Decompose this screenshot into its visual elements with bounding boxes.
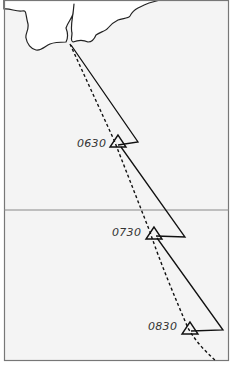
navigation-chart [0, 0, 232, 382]
fix-time-label: 0830 [148, 321, 177, 332]
sea-area [4, 0, 229, 361]
fix-time-label: 0630 [77, 138, 106, 149]
fix-time-label: 0730 [112, 227, 141, 238]
